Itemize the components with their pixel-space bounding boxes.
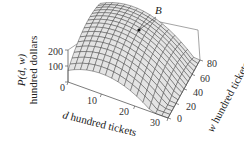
d-tick-20: 20 bbox=[119, 106, 129, 117]
w-tick-80: 80 bbox=[207, 58, 217, 69]
point-b-label: B bbox=[155, 4, 162, 16]
point-b-marker bbox=[137, 28, 140, 31]
z-tick-0: 0 bbox=[60, 82, 65, 93]
w-tick-20: 20 bbox=[186, 101, 196, 112]
w-axis-label: w hundred tickets bbox=[204, 60, 244, 134]
svg-text:hundred dollars: hundred dollars bbox=[27, 36, 39, 105]
d-tick-10: 10 bbox=[87, 95, 97, 106]
z-tick-100: 100 bbox=[48, 61, 63, 72]
z-axis-label: P(d, w) hundred dollars bbox=[15, 36, 39, 105]
w-tick-40: 40 bbox=[193, 87, 203, 98]
w-tick-0: 0 bbox=[177, 113, 182, 124]
svg-text:w hundred tickets: w hundred tickets bbox=[204, 60, 244, 134]
z-tick-200: 200 bbox=[48, 46, 63, 57]
surface-plot: B 200 100 0 10 20 30 0 20 40 60 80 P(d, … bbox=[0, 0, 244, 148]
w-tick-60: 60 bbox=[200, 73, 210, 84]
d-tick-30: 30 bbox=[150, 117, 160, 128]
